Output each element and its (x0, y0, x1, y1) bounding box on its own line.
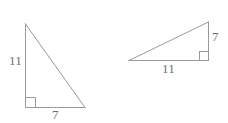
left-triangle (26, 24, 86, 108)
geometry-figure-canvas: 11 7 7 11 (0, 0, 228, 123)
triangles-diagram (0, 0, 228, 123)
right-triangle-right-angle-icon (200, 52, 209, 61)
right-triangle (129, 22, 209, 61)
left-triangle-hypotenuse (26, 24, 86, 108)
right-triangle-vertical-leg-label: 7 (212, 30, 219, 43)
left-triangle-right-angle-icon (26, 98, 36, 108)
right-triangle-horizontal-leg-label: 11 (162, 62, 175, 75)
left-triangle-horizontal-leg-label: 7 (52, 108, 59, 121)
left-triangle-vertical-leg-label: 11 (9, 54, 22, 67)
right-triangle-hypotenuse (129, 22, 209, 61)
